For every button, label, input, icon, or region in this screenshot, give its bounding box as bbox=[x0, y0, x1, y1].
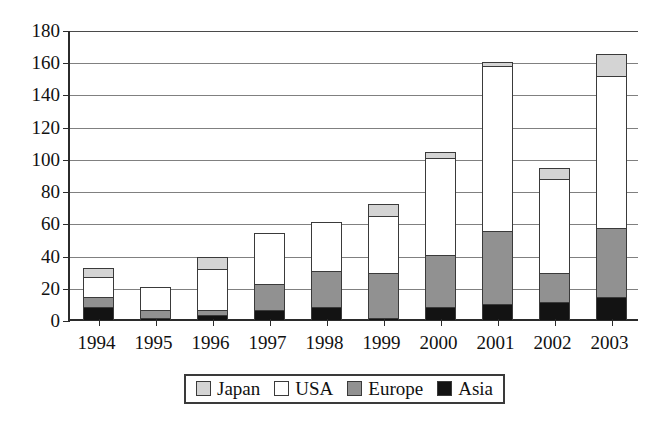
y-tick-mark bbox=[63, 224, 70, 225]
x-axis-tick-label: 2001 bbox=[477, 332, 515, 354]
bar-segment-usa bbox=[368, 216, 399, 274]
y-axis-tick-label: 60 bbox=[41, 214, 60, 233]
y-tick-mark bbox=[63, 321, 70, 322]
legend-item-asia: Asia bbox=[437, 379, 493, 398]
y-axis-tick-label: 80 bbox=[41, 182, 60, 201]
legend-swatch-japan-icon bbox=[196, 381, 211, 396]
y-axis-tick-label: 140 bbox=[32, 85, 61, 104]
stacked-bar-chart: 020406080100120140160180 199419951996199… bbox=[0, 0, 653, 424]
x-tick-mark bbox=[327, 319, 328, 326]
bar-segment-usa bbox=[482, 66, 513, 232]
legend-item-usa: USA bbox=[274, 379, 333, 398]
plot-area bbox=[68, 31, 638, 321]
bar-1995 bbox=[140, 284, 171, 319]
bar-segment-asia bbox=[539, 302, 570, 320]
bar-1999 bbox=[368, 200, 399, 319]
bar-segment-usa bbox=[197, 269, 228, 311]
y-axis-tick-label: 180 bbox=[32, 21, 61, 40]
x-tick-mark bbox=[612, 319, 613, 326]
y-tick-mark bbox=[63, 160, 70, 161]
x-axis-label-group: 1994199519961997199819992000200120022003 bbox=[68, 332, 638, 358]
bar-segment-usa bbox=[83, 277, 114, 298]
y-axis-tick-label: 100 bbox=[32, 150, 61, 169]
bar-1994 bbox=[83, 264, 114, 319]
bar-1996 bbox=[197, 253, 228, 319]
bar-2002 bbox=[539, 164, 570, 319]
bar-2003 bbox=[596, 50, 627, 319]
legend-item-europe: Europe bbox=[347, 379, 423, 398]
legend-label: Japan bbox=[217, 379, 260, 398]
legend-swatch-usa-icon bbox=[274, 381, 289, 396]
bar-segment-usa bbox=[254, 233, 285, 285]
bar-segment-usa bbox=[140, 287, 171, 311]
bar-segment-europe bbox=[311, 271, 342, 308]
y-tick-mark bbox=[63, 95, 70, 96]
x-axis-tick-label: 2003 bbox=[591, 332, 629, 354]
y-axis-tick-label: 40 bbox=[41, 247, 60, 266]
y-tick-mark bbox=[63, 289, 70, 290]
x-tick-mark bbox=[441, 319, 442, 326]
x-axis-tick-label: 2002 bbox=[534, 332, 572, 354]
bar-segment-europe bbox=[254, 284, 285, 311]
legend-swatch-asia-icon bbox=[437, 381, 452, 396]
x-tick-mark bbox=[498, 319, 499, 326]
bar-segment-europe bbox=[539, 273, 570, 304]
y-tick-mark bbox=[63, 31, 70, 32]
y-tick-mark bbox=[63, 128, 70, 129]
bar-1997 bbox=[254, 230, 285, 319]
legend-label: Europe bbox=[368, 379, 423, 398]
x-axis-tick-label: 2000 bbox=[420, 332, 458, 354]
x-axis-tick-label: 1995 bbox=[135, 332, 173, 354]
legend-swatch-europe-icon bbox=[347, 381, 362, 396]
legend-label: USA bbox=[295, 379, 333, 398]
bar-segment-europe bbox=[425, 255, 456, 308]
bar-segment-asia bbox=[482, 304, 513, 320]
chart-legend: JapanUSAEuropeAsia bbox=[184, 374, 505, 404]
bar-1998 bbox=[311, 219, 342, 319]
x-tick-mark bbox=[384, 319, 385, 326]
x-axis-tick-label: 1996 bbox=[192, 332, 230, 354]
x-tick-mark bbox=[156, 319, 157, 326]
x-tick-mark bbox=[213, 319, 214, 326]
bar-2000 bbox=[425, 148, 456, 319]
y-axis-tick-label: 120 bbox=[32, 118, 61, 137]
x-axis-tick-label: 1999 bbox=[363, 332, 401, 354]
x-tick-mark bbox=[270, 319, 271, 326]
bar-segment-usa bbox=[539, 179, 570, 274]
bar-segment-usa bbox=[596, 76, 627, 229]
bar-segment-usa bbox=[311, 222, 342, 272]
y-axis-tick-label: 160 bbox=[32, 53, 61, 72]
x-axis-tick-label: 1994 bbox=[78, 332, 116, 354]
x-tick-mark bbox=[555, 319, 556, 326]
bar-segment-europe bbox=[368, 273, 399, 320]
bar-group bbox=[70, 31, 638, 319]
y-axis-tick-label: 0 bbox=[51, 311, 61, 330]
y-tick-mark bbox=[63, 257, 70, 258]
x-tick-mark bbox=[99, 319, 100, 326]
bar-segment-japan bbox=[596, 54, 627, 77]
bar-segment-asia bbox=[596, 297, 627, 320]
y-tick-mark bbox=[63, 63, 70, 64]
legend-label: Asia bbox=[458, 379, 493, 398]
y-tick-mark bbox=[63, 192, 70, 193]
legend-item-japan: Japan bbox=[196, 379, 260, 398]
bar-segment-europe bbox=[482, 231, 513, 305]
y-axis-tick-label: 20 bbox=[41, 279, 60, 298]
x-axis-tick-label: 1998 bbox=[306, 332, 344, 354]
bar-segment-usa bbox=[425, 158, 456, 256]
bar-2001 bbox=[482, 58, 513, 319]
x-axis-tick-label: 1997 bbox=[249, 332, 287, 354]
y-axis-label-group: 020406080100120140160180 bbox=[0, 31, 60, 321]
bar-segment-europe bbox=[596, 228, 627, 299]
